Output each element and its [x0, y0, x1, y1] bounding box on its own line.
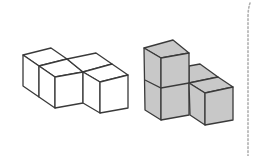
gray-tetracube: [144, 40, 233, 125]
dotted-divider-line: [248, 3, 250, 156]
dotted-divider: [248, 3, 250, 156]
cube-face: [55, 72, 83, 108]
cube-face: [161, 53, 189, 120]
cube-face: [100, 75, 128, 113]
figure-canvas: [0, 0, 256, 156]
white-tetracube: [23, 48, 128, 113]
cube-face: [205, 87, 233, 125]
